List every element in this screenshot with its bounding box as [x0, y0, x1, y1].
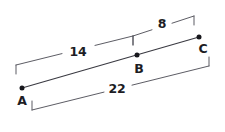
dimension-label-22: 22: [109, 81, 126, 96]
dimension-line-14-right-part: [95, 36, 133, 45]
point-label-c: C: [199, 41, 208, 56]
dimension-line-8-left-part: [133, 30, 152, 36]
geometry-svg: 14 8 22 A B C: [0, 0, 225, 132]
point-marker-a: [20, 86, 25, 91]
dimension-line-22-left-part: [32, 92, 104, 110]
dimension-label-14: 14: [70, 44, 87, 59]
point-label-b: B: [134, 61, 143, 76]
dimension-group-22: 22: [32, 57, 209, 110]
dimension-label-8: 8: [158, 16, 166, 31]
dimension-line-8-right-part: [172, 16, 194, 23]
geometry-diagram-canvas: 14 8 22 A B C: [0, 0, 225, 132]
dimension-line-14-left-part: [16, 54, 62, 65]
dimension-group-14: 14: [16, 36, 133, 74]
point-label-a: A: [17, 93, 27, 108]
point-marker-c: [197, 35, 202, 40]
point-marker-b: [135, 53, 140, 58]
